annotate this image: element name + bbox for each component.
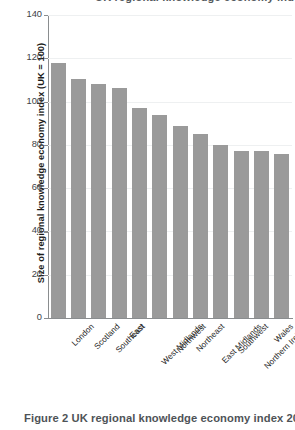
bar [71, 79, 86, 318]
x-axis-line [48, 318, 293, 319]
bar [274, 154, 289, 318]
y-tick-label: 120 [2, 53, 42, 62]
bar [91, 84, 106, 318]
plot-area [48, 15, 292, 318]
y-tick-label: 60 [2, 183, 42, 192]
figure-caption: Figure 2 UK regional knowledge economy i… [24, 412, 295, 424]
bar [112, 88, 127, 318]
bar [173, 126, 188, 318]
y-tick-label: 80 [2, 140, 42, 149]
y-tick-label: 0 [2, 313, 42, 322]
bar [132, 108, 147, 318]
bar [152, 115, 167, 318]
y-tick-label: 40 [2, 226, 42, 235]
y-tick-mark [44, 318, 48, 319]
bar [193, 134, 208, 318]
bar [234, 151, 249, 318]
bar [254, 151, 269, 318]
y-tick-label: 140 [2, 10, 42, 19]
bar [213, 145, 228, 318]
y-tick-label: 20 [2, 270, 42, 279]
figure-caption-strip: Figure 2 UK regional knowledge economy i… [0, 412, 295, 430]
bar [51, 63, 66, 318]
figure-container: Size of regional knowledge economy index… [0, 0, 295, 430]
y-tick-label: 100 [2, 97, 42, 106]
